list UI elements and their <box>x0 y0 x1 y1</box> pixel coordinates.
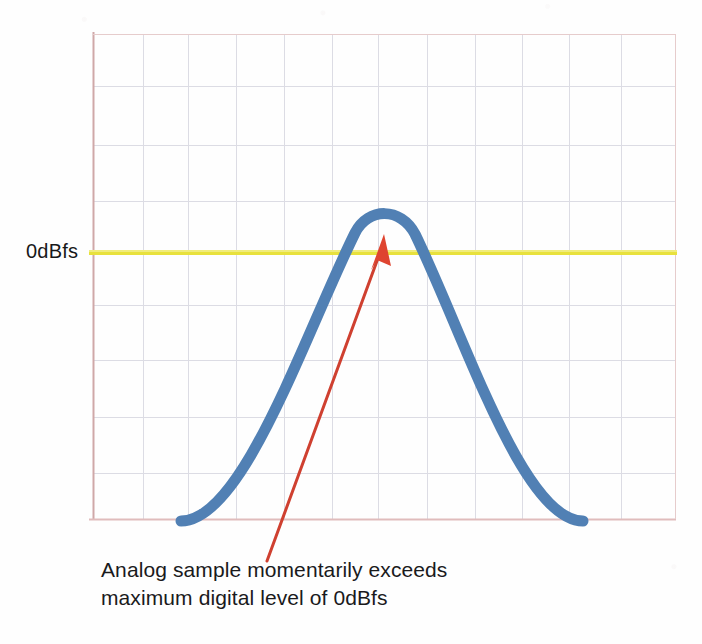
caption-line-2: maximum digital level of 0dBfs <box>101 584 447 612</box>
grid-vertical-lines <box>144 34 622 519</box>
axis-lines <box>89 32 676 520</box>
plot-area <box>93 34 676 519</box>
caption-line-1: Analog sample momentarily exceeds <box>101 556 447 584</box>
annotation-caption: Analog sample momentarily exceeds maximu… <box>101 556 447 612</box>
figure-canvas: 0dBfs <box>0 0 702 644</box>
plot-svg <box>93 34 702 579</box>
threshold-axis-label: 0dBfs <box>26 240 78 263</box>
